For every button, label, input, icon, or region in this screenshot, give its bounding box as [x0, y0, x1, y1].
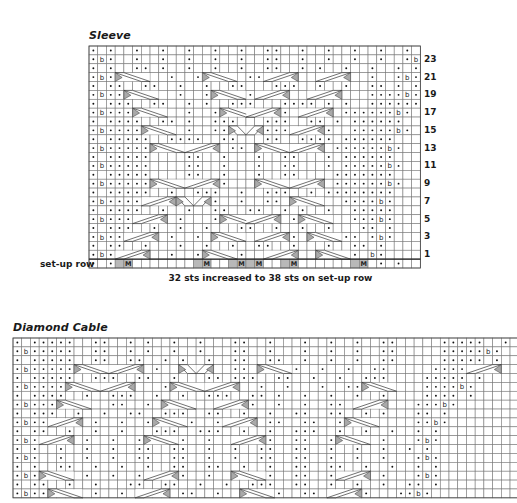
- purl-dot: [391, 359, 393, 361]
- purl-dot: [304, 341, 306, 343]
- purl-dot: [415, 76, 417, 78]
- purl-dot: [234, 359, 236, 361]
- stitch-cell: [150, 46, 159, 55]
- purl-dot: [119, 121, 121, 123]
- stitch-cell: [257, 374, 266, 383]
- cable-cross: [246, 215, 281, 224]
- stitch-cell: [283, 338, 292, 347]
- purl-dot: [182, 413, 184, 415]
- cable-cross: [176, 197, 193, 206]
- stitch-cell: [118, 409, 127, 418]
- purl-dot: [398, 165, 400, 167]
- stitch-cell: [388, 471, 397, 480]
- stitch-cell: [124, 82, 133, 91]
- stitch-cell: [475, 436, 484, 445]
- stitch-cell: [126, 436, 135, 445]
- purl-dot: [127, 121, 129, 123]
- purl-dot: [293, 85, 295, 87]
- make-one-symbol: M: [256, 260, 262, 268]
- stitch-cell: [150, 250, 159, 259]
- stitch-cell: [202, 46, 211, 55]
- purl-dot: [165, 359, 167, 361]
- stitch-cell: [83, 462, 92, 471]
- purl-dot: [354, 254, 356, 256]
- stitch-cell: [187, 462, 196, 471]
- twisted-stitch-symbol: b: [396, 109, 401, 117]
- purl-dot: [119, 147, 121, 149]
- stitch-cell: [187, 347, 196, 356]
- stitch-cell: [255, 135, 264, 144]
- stitch-cell: [449, 436, 458, 445]
- cable-cross: [290, 144, 325, 153]
- stitch-cell: [229, 153, 238, 162]
- stitch-cell: [98, 64, 107, 73]
- purl-dot: [418, 475, 420, 477]
- stitch-cell: [229, 224, 238, 233]
- purl-dot: [409, 448, 411, 450]
- purl-dot: [293, 245, 295, 247]
- stitch-cell: [379, 427, 388, 436]
- purl-dot: [284, 121, 286, 123]
- stitch-cell: [144, 391, 153, 400]
- purl-dot: [418, 421, 420, 423]
- purl-dot: [234, 341, 236, 343]
- purl-dot: [354, 112, 356, 114]
- purl-dot: [43, 386, 45, 388]
- twisted-stitch-symbol: b: [425, 437, 430, 445]
- stitch-cell: [397, 365, 406, 374]
- stitch-cell: [194, 90, 203, 99]
- stitch-cell: [100, 453, 109, 462]
- stitch-cell: [336, 356, 345, 365]
- twisted-stitch-symbol: b: [24, 454, 29, 462]
- purl-dot: [182, 466, 184, 468]
- stitch-cell: [466, 471, 475, 480]
- stitch-cell: [257, 347, 266, 356]
- purl-dot: [43, 359, 45, 361]
- purl-dot: [60, 457, 62, 459]
- stitch-cell: [510, 489, 517, 498]
- stitch-cell: [283, 480, 292, 489]
- stitch-cell: [333, 241, 342, 250]
- stitch-cell: [179, 374, 188, 383]
- purl-dot: [302, 209, 304, 211]
- stitch-cell: [493, 382, 502, 391]
- purl-dot: [252, 484, 254, 486]
- purl-dot: [51, 404, 53, 406]
- stitch-cell: [275, 436, 284, 445]
- stitch-cell: [237, 179, 246, 188]
- make-one-symbol: M: [203, 260, 209, 268]
- purl-dot: [415, 103, 417, 105]
- purl-dot: [330, 439, 332, 441]
- purl-dot: [444, 421, 446, 423]
- purl-dot: [365, 492, 367, 494]
- stitch-cell: [362, 338, 371, 347]
- stitch-cell: [74, 453, 83, 462]
- purl-dot: [110, 174, 112, 176]
- purl-dot: [34, 430, 36, 432]
- stitch-cell: [275, 409, 284, 418]
- stitch-cell: [283, 347, 292, 356]
- stitch-cell: [501, 462, 510, 471]
- stitch-cell: [298, 170, 307, 179]
- purl-dot: [214, 200, 216, 202]
- purl-dot: [418, 484, 420, 486]
- sleeve-chart-title: Sleeve: [89, 29, 131, 42]
- stitch-cell: [255, 224, 264, 233]
- stitch-cell: [22, 338, 31, 347]
- purl-dot: [389, 192, 391, 194]
- stitch-cell: [98, 135, 107, 144]
- stitch-cell: [458, 436, 467, 445]
- purl-dot: [345, 192, 347, 194]
- stitch-cell: [449, 427, 458, 436]
- stitch-cell: [510, 427, 517, 436]
- purl-dot: [200, 350, 202, 352]
- stitch-cell: [74, 374, 83, 383]
- stitch-cell: [196, 489, 205, 498]
- stitch-cell: [362, 445, 371, 454]
- stitch-cell: [412, 232, 421, 241]
- stitch-cell: [414, 338, 423, 347]
- stitch-cell: [109, 480, 118, 489]
- stitch-cell: [342, 259, 351, 268]
- stitch-cell: [263, 161, 272, 170]
- stitch-cell: [240, 445, 249, 454]
